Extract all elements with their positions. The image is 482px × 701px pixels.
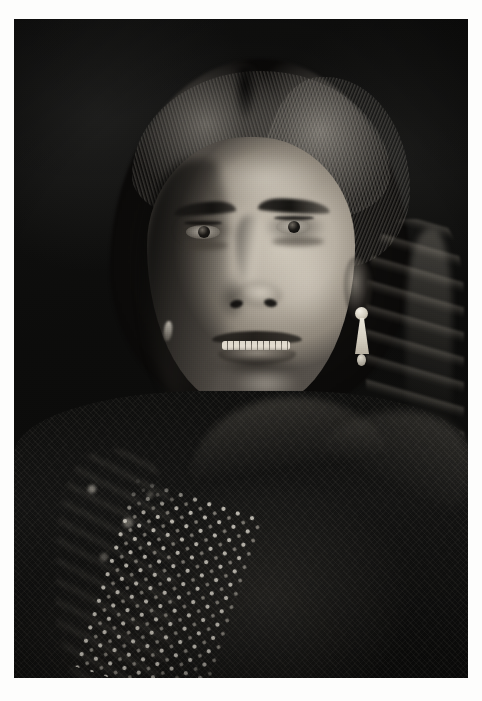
pupil-right bbox=[288, 221, 300, 233]
photo-print-frame bbox=[14, 19, 468, 678]
cheek-highlight-right bbox=[276, 237, 354, 341]
photograph-page bbox=[0, 0, 482, 701]
under-eye-shadow-right bbox=[272, 237, 324, 246]
caption bbox=[14, 680, 468, 700]
eyelid-right bbox=[274, 216, 314, 220]
pupil-left bbox=[198, 226, 210, 238]
eyelid-left bbox=[184, 221, 222, 225]
earring-right-tip bbox=[357, 354, 366, 366]
under-eye-shadow-left bbox=[184, 241, 228, 250]
hair-center-part bbox=[232, 67, 258, 127]
forehead-highlight bbox=[200, 147, 330, 209]
